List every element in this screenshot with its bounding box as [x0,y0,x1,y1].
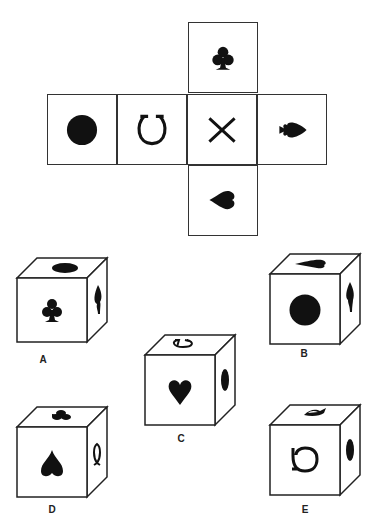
net-face-center [187,94,257,165]
horseshoe-icon [118,95,186,164]
option-d-label: D [48,504,55,515]
option-e-cube[interactable] [270,405,370,505]
net-face-top [188,22,258,93]
circle-icon [48,95,116,164]
option-d-cube[interactable] [17,407,117,507]
club-icon [189,23,257,92]
option-c-label: C [177,433,184,444]
x-cross-icon [188,95,256,164]
heart-icon [189,166,257,235]
option-c-cube[interactable] [145,335,245,435]
side-circle-icon [221,369,229,391]
top-circle-icon [52,263,78,273]
option-b-label: B [300,348,307,359]
net-face-horseshoe [117,94,187,165]
option-a-label: A [39,354,46,365]
option-b-cube[interactable] [270,254,370,354]
option-a-cube[interactable] [17,258,117,358]
side-circle-icon [346,439,354,461]
net-face-circle [47,94,117,165]
net-face-heart [188,165,258,236]
net-face-spade [257,94,327,165]
front-circle-icon [290,295,321,326]
option-e-label: E [302,504,309,515]
spade-icon [258,95,326,164]
